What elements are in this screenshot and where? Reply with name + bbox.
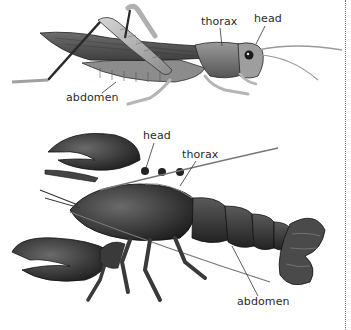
grasshopper-thorax-label: thorax xyxy=(201,16,237,27)
lobster-head-label: head xyxy=(143,130,171,141)
grasshopper-abdomen-label: abdomen xyxy=(66,92,119,103)
diagram-canvas: thorax head abdomen head thorax abdomen xyxy=(0,0,351,330)
lobster-thorax-label: thorax xyxy=(182,149,218,160)
lobster-abdomen-label: abdomen xyxy=(237,296,290,307)
dotted-divider xyxy=(345,0,346,330)
lobster-illustration xyxy=(0,0,351,330)
grasshopper-head-label: head xyxy=(254,13,282,24)
